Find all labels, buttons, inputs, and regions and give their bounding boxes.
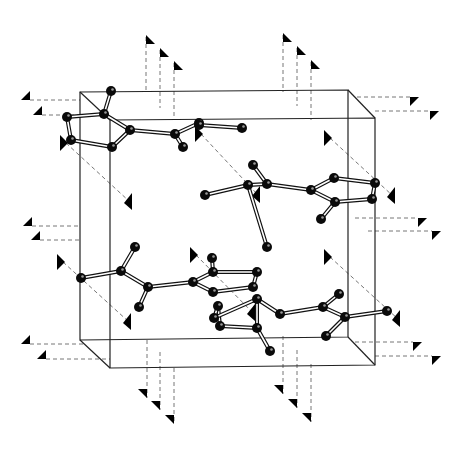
screw-axis-diagonal: [66, 143, 130, 202]
atom: [107, 142, 117, 152]
atom-highlight: [257, 269, 260, 272]
atom: [243, 180, 253, 190]
atom-highlight: [267, 181, 270, 184]
symmetry-marker-icon: [123, 313, 131, 330]
symmetry-marker-icon: [146, 35, 155, 44]
atom: [125, 125, 135, 135]
atom-highlight: [270, 348, 273, 351]
atom-highlight: [104, 111, 107, 114]
atom-highlight: [112, 144, 115, 147]
atom-highlight: [345, 314, 348, 317]
symmetry-marker-icon: [311, 60, 320, 69]
atom: [334, 289, 344, 299]
atom-highlight: [372, 196, 375, 199]
atom-highlight: [214, 315, 217, 318]
cell-back-face: [110, 118, 375, 368]
symmetry-marker-icon: [392, 310, 400, 327]
atom-highlight: [387, 308, 390, 311]
symmetry-marker-icon: [324, 249, 332, 265]
bond-highlight: [280, 307, 323, 314]
atom-highlight: [321, 216, 324, 219]
atom-highlight: [148, 284, 151, 287]
atom: [208, 287, 218, 297]
atom-highlight: [121, 268, 124, 271]
atom-highlight: [213, 289, 216, 292]
atom: [130, 242, 140, 252]
atom-highlight: [335, 199, 338, 202]
atom-highlight: [175, 131, 178, 134]
atom-highlight: [339, 291, 342, 294]
symmetry-marker-icon: [418, 218, 427, 227]
atom-highlight: [253, 162, 256, 165]
symmetry-marker-icon: [21, 335, 30, 344]
crystal-packing-diagram: [0, 0, 455, 450]
screw-axis-diagonal: [330, 138, 393, 196]
atom: [252, 323, 262, 333]
bond-highlight: [345, 311, 387, 317]
atom-highlight: [375, 180, 378, 183]
cell-depth-edge: [80, 340, 110, 368]
atom: [99, 109, 109, 119]
atom-highlight: [280, 311, 283, 314]
atom-highlight: [253, 284, 256, 287]
atom: [207, 253, 217, 263]
symmetry-marker-icon: [302, 413, 311, 422]
symmetry-marker-icon: [190, 247, 198, 263]
molecule-3: [76, 242, 262, 312]
symmetry-marker-icon: [410, 97, 419, 106]
symmetry-marker-icon: [432, 231, 441, 240]
atom: [200, 190, 210, 200]
symmetry-marker-icon: [387, 187, 395, 204]
atom: [330, 197, 340, 207]
atom-highlight: [220, 323, 223, 326]
symmetry-marker-icon: [283, 33, 292, 42]
atom-highlight: [326, 333, 329, 336]
cell-depth-edge: [348, 90, 375, 118]
symmetry-marker-icon: [21, 91, 30, 100]
symmetry-marker-icon: [297, 46, 306, 55]
atom: [262, 242, 272, 252]
symmetry-marker-icon: [23, 217, 32, 226]
atom: [215, 321, 225, 331]
symmetry-marker-icon: [430, 111, 439, 120]
atom-highlight: [67, 114, 70, 117]
symmetry-marker-icon: [413, 342, 422, 351]
atom-highlight: [334, 175, 337, 178]
atom: [382, 306, 392, 316]
atom: [208, 267, 218, 277]
atom: [340, 312, 350, 322]
atom: [265, 346, 275, 356]
symmetry-marker-icon: [324, 130, 332, 146]
atom-highlight: [205, 192, 208, 195]
cell-depth-edge: [348, 337, 375, 365]
symmetry-marker-icon: [57, 254, 65, 270]
atom: [213, 301, 223, 311]
atom: [275, 309, 285, 319]
atom: [329, 173, 339, 183]
symmetry-marker-icon: [160, 48, 169, 57]
atom: [62, 112, 72, 122]
atom: [262, 179, 272, 189]
atom-highlight: [199, 122, 202, 125]
bond-highlight: [267, 184, 311, 190]
atom-highlight: [111, 88, 114, 91]
symmetry-marker-icon: [31, 231, 40, 240]
symmetry-marker-icon: [33, 106, 42, 115]
atom-highlight: [183, 144, 186, 147]
atom: [76, 273, 86, 283]
symmetry-marker-icon: [174, 61, 183, 70]
molecules: [62, 86, 392, 356]
atom: [248, 160, 258, 170]
atom: [143, 282, 153, 292]
symmetry-marker-icon: [432, 356, 441, 365]
atom: [306, 185, 316, 195]
symmetry-marker-icon: [37, 350, 46, 359]
atom: [178, 142, 188, 152]
atom: [106, 86, 116, 96]
atom: [370, 178, 380, 188]
symmetry-marker-icon: [165, 415, 174, 424]
atom: [116, 266, 126, 276]
atom-highlight: [267, 244, 270, 247]
atom-highlight: [139, 304, 142, 307]
bond-highlight: [81, 271, 121, 278]
